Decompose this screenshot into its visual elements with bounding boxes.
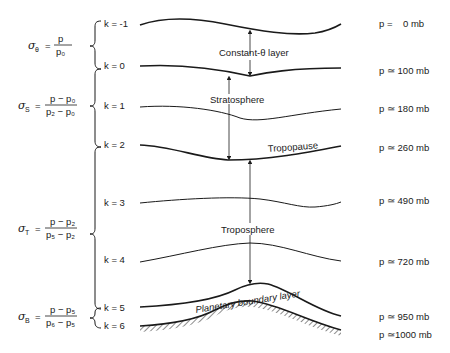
svg-text:T: T: [25, 229, 30, 236]
pressure-label-k-0: p ≃ 100 mb: [379, 65, 429, 76]
k-label-3: k = 3: [104, 197, 125, 208]
level-curve-k-0: [140, 65, 341, 76]
level-curve-k-4: [140, 243, 341, 262]
pressure-label-k-4: p ≃ 720 mb: [379, 256, 429, 267]
sigma-coordinate-diagram: Constant-θ layer Stratosphere Tropopause…: [0, 0, 450, 353]
k-label-5: k = 5: [104, 302, 125, 313]
level-curve-k-3: [140, 198, 341, 207]
pressure-label-k-5: p ≃ 950 mb: [379, 311, 429, 322]
brace-theta: [90, 21, 101, 69]
sigma-s-definition: σS = p − p₀ p₂ − p₀: [18, 93, 77, 117]
brace-troposphere: [90, 147, 101, 309]
svg-text:=: =: [35, 223, 41, 234]
svg-text:p: p: [58, 33, 63, 44]
svg-text:=: =: [45, 40, 51, 51]
k-label-minus-1: k = -1: [104, 18, 128, 29]
k-label-2: k = 2: [104, 139, 125, 150]
brace-stratosphere: [90, 69, 101, 147]
k-label-4: k = 4: [104, 254, 125, 265]
svg-text:S: S: [25, 106, 30, 113]
pressure-label-k-2: p ≃ 260 mb: [379, 142, 429, 153]
svg-text:=: =: [35, 311, 41, 322]
sigma-t-definition: σT = p − p₂ p₅ − p₂: [18, 216, 77, 240]
svg-text:p − p₂: p − p₂: [50, 216, 75, 227]
svg-text:p₀: p₀: [56, 46, 65, 57]
level-curve-k-minus-1: [140, 19, 341, 34]
svg-text:θ: θ: [35, 46, 39, 53]
label-troposphere: Troposphere: [221, 224, 275, 235]
svg-text:p − p₀: p − p₀: [50, 93, 75, 104]
k-label-1: k = 1: [104, 100, 125, 111]
k-label-6: k = 6: [104, 320, 125, 331]
brace-boundary: [90, 308, 101, 328]
sigma-theta-definition: σθ = p p₀: [28, 33, 72, 57]
pressure-label-k-1: p ≃ 180 mb: [379, 103, 429, 114]
pressure-label-k-minus-1: p = 0 mb: [379, 18, 424, 29]
svg-text:p₆ − p₅: p₆ − p₅: [46, 317, 75, 328]
svg-text:p − p₅: p − p₅: [50, 304, 75, 315]
label-constant-theta-layer: Constant-θ layer: [219, 47, 289, 58]
k-label-0: k = 0: [104, 60, 125, 71]
label-stratosphere: Stratosphere: [210, 94, 264, 105]
svg-text:p₅ − p₂: p₅ − p₂: [46, 229, 75, 240]
svg-text:B: B: [25, 317, 30, 324]
level-curve-k-1: [140, 106, 341, 120]
pressure-label-k-3: p ≃ 490 mb: [379, 195, 429, 206]
sigma-b-definition: σB = p − p₅ p₆ − p₅: [18, 304, 77, 328]
svg-text:p₂ − p₀: p₂ − p₀: [46, 106, 75, 117]
pressure-label-k-6: p ≃1000 mb: [379, 329, 432, 340]
svg-text:=: =: [35, 100, 41, 111]
